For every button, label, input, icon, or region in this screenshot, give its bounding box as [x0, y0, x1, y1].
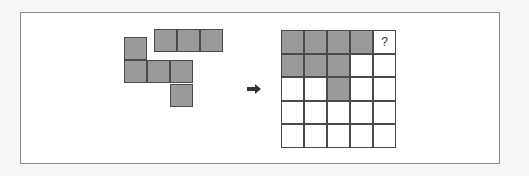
grid-cell [281, 54, 304, 78]
right-arrow-icon [247, 84, 261, 94]
grid-cell [281, 101, 304, 125]
grid-cell [304, 101, 327, 125]
piece-cell [170, 84, 193, 107]
piece-cell [147, 60, 170, 83]
grid-cell [304, 54, 327, 78]
grid-cell [327, 54, 350, 78]
question-mark: ? [381, 35, 388, 49]
piece-cell [200, 29, 223, 52]
grid-cell [350, 77, 373, 101]
piece-cell [124, 60, 147, 83]
grid-cell [350, 30, 373, 54]
question-cell: ? [373, 30, 396, 54]
piece-cell [170, 60, 193, 83]
grid-cell [350, 54, 373, 78]
target-grid: ? [281, 30, 396, 148]
grid-cell [304, 77, 327, 101]
grid-cell [373, 77, 396, 101]
grid-cell [373, 54, 396, 78]
grid-cell [281, 124, 304, 148]
grid-cell [304, 30, 327, 54]
grid-cell [350, 101, 373, 125]
grid-cell [327, 77, 350, 101]
grid-cell [373, 101, 396, 125]
grid-cell [281, 77, 304, 101]
grid-cell [327, 101, 350, 125]
grid-cell [350, 124, 373, 148]
piece-cell [154, 29, 177, 52]
grid-cell [304, 124, 327, 148]
grid-cell [327, 30, 350, 54]
grid-cell [373, 124, 396, 148]
grid-cell [281, 30, 304, 54]
piece-cell [177, 29, 200, 52]
piece-cell [124, 37, 147, 60]
grid-cell [327, 124, 350, 148]
